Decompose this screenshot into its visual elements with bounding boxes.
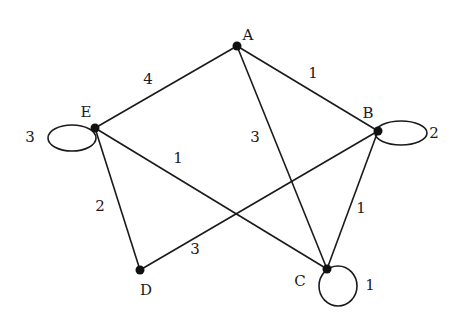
edge-a-b bbox=[237, 46, 378, 131]
edge-weight-label: 3 bbox=[250, 128, 260, 146]
node-d bbox=[136, 266, 145, 275]
edge-b-c bbox=[327, 131, 378, 269]
node-label-d: D bbox=[140, 281, 152, 299]
loop-weight-label: 1 bbox=[365, 276, 375, 294]
node-e bbox=[91, 124, 100, 133]
node-label-a: A bbox=[242, 26, 254, 44]
self-loop-b bbox=[375, 121, 427, 145]
node-b bbox=[374, 127, 383, 136]
edge-weight-label: 3 bbox=[190, 240, 200, 258]
loop-weight-label: 3 bbox=[25, 128, 35, 146]
graph-svg: 4131231321ABCDE bbox=[0, 0, 470, 323]
self-loop-e bbox=[48, 125, 96, 151]
node-a bbox=[233, 42, 242, 51]
graph-diagram: 4131231321ABCDE bbox=[0, 0, 470, 323]
edge-e-c bbox=[95, 128, 327, 269]
edge-e-a bbox=[95, 46, 237, 128]
edge-weight-label: 2 bbox=[95, 197, 105, 215]
node-label-e: E bbox=[81, 103, 92, 121]
labels-group: 4131231321ABCDE bbox=[25, 26, 439, 299]
edge-weight-label: 1 bbox=[356, 199, 366, 217]
node-c bbox=[323, 265, 332, 274]
edge-weight-label: 1 bbox=[308, 64, 318, 82]
edges-group bbox=[95, 46, 378, 270]
node-label-c: C bbox=[294, 272, 305, 290]
edge-weight-label: 4 bbox=[143, 70, 153, 88]
node-label-b: B bbox=[362, 104, 373, 122]
edge-weight-label: 1 bbox=[173, 149, 183, 167]
loop-weight-label: 2 bbox=[429, 124, 439, 142]
